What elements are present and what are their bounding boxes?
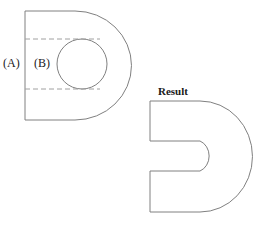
geometry-diagram-svg [0, 0, 272, 234]
label-b: (B) [34, 57, 50, 69]
figure-root: (A) (B) Result [0, 0, 272, 234]
result-horseshoe-outline [150, 101, 252, 212]
label-a: (A) [3, 57, 20, 69]
label-result: Result [158, 86, 188, 97]
inner-circle-hole [57, 39, 107, 89]
